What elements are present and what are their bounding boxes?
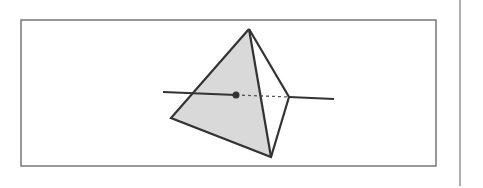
intersection-point	[233, 92, 240, 99]
tetrahedron-diagram	[0, 0, 483, 188]
line-outside-right	[289, 97, 334, 99]
